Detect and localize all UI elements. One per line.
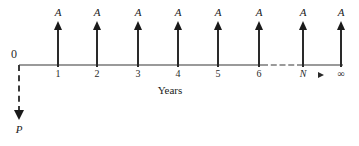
- period-tick-label-2: 2: [87, 68, 107, 79]
- cash-flow-arrowhead-1: [54, 21, 62, 30]
- cash-flow-amount-label-4: A: [168, 7, 188, 18]
- cash-flow-arrowhead-5: [214, 21, 222, 30]
- present-value-label: P: [9, 124, 29, 135]
- cash-flow-arrow-stem-infinity: [340, 28, 342, 67]
- axis-caption-years: Years: [140, 84, 200, 96]
- cash-flow-arrowhead-2: [93, 21, 101, 30]
- period-tick-label-1: 1: [48, 68, 68, 79]
- cash-flow-arrowhead-n: [299, 21, 307, 30]
- cash-flow-arrowhead-6: [255, 21, 263, 30]
- cash-flow-amount-label-1: A: [48, 7, 68, 18]
- cash-flow-arrow-stem-4: [177, 28, 179, 67]
- cash-flow-arrow-stem-n: [302, 28, 304, 67]
- cash-flow-arrowhead-infinity: [337, 21, 345, 30]
- cash-flow-amount-label-6: A: [249, 7, 269, 18]
- timeline-axis-solid: [19, 64, 263, 66]
- period-tick-label-4: 4: [168, 68, 188, 79]
- cash-flow-amount-label-2: A: [87, 7, 107, 18]
- continuation-arrow-icon: [318, 72, 324, 78]
- period-tick-label-n: N: [293, 68, 313, 79]
- cash-flow-amount-label-n: A: [293, 7, 313, 18]
- cash-flow-arrowhead-4: [174, 21, 182, 30]
- cash-flow-amount-label-3: A: [128, 7, 148, 18]
- present-value-arrowhead: [14, 110, 24, 120]
- cash-flow-amount-label-infinity: A: [331, 7, 351, 18]
- cash-flow-arrow-stem-1: [57, 28, 59, 67]
- timeline-axis-dashed-break: [262, 64, 303, 66]
- timeline-axis-tail: [302, 64, 343, 66]
- period-tick-label-6: 6: [249, 68, 269, 79]
- origin-label: 0: [11, 48, 17, 60]
- cash-flow-arrow-stem-3: [137, 28, 139, 67]
- period-tick-label-3: 3: [128, 68, 148, 79]
- period-tick-label-5: 5: [208, 68, 228, 79]
- period-tick-label-infinity: ∞: [331, 68, 351, 79]
- present-value-arrow-stem: [18, 65, 20, 112]
- cash-flow-arrow-stem-6: [258, 28, 260, 67]
- cash-flow-arrow-stem-5: [217, 28, 219, 67]
- cash-flow-amount-label-5: A: [208, 7, 228, 18]
- cash-flow-arrow-stem-2: [96, 28, 98, 67]
- cash-flow-arrowhead-3: [134, 21, 142, 30]
- cash-flow-diagram: 0 A 1 A 2 A 3 A 4 A 5: [0, 0, 359, 146]
